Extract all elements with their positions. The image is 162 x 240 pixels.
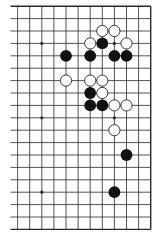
hoshi-point: [40, 116, 43, 119]
white-stone[interactable]: [60, 75, 71, 86]
white-stone[interactable]: [85, 38, 96, 49]
hoshi-point: [40, 42, 43, 45]
go-board[interactable]: [0, 0, 162, 240]
black-stone[interactable]: [109, 186, 121, 198]
white-stone[interactable]: [85, 75, 96, 86]
black-stone[interactable]: [84, 50, 96, 62]
hoshi-point: [113, 116, 116, 119]
black-stone[interactable]: [96, 100, 108, 112]
black-stone[interactable]: [84, 100, 96, 112]
white-stone[interactable]: [109, 100, 120, 111]
black-stone[interactable]: [60, 50, 72, 62]
white-stone[interactable]: [97, 75, 108, 86]
black-stone[interactable]: [121, 149, 133, 161]
black-stone[interactable]: [96, 38, 108, 50]
white-stone[interactable]: [121, 100, 132, 111]
black-stone[interactable]: [109, 50, 121, 62]
stones-layer: [60, 25, 132, 198]
black-stone[interactable]: [84, 87, 96, 99]
hoshi-point: [113, 42, 116, 45]
hoshi-point: [40, 191, 43, 194]
white-stone[interactable]: [121, 38, 132, 49]
white-stone[interactable]: [109, 125, 120, 136]
white-stone[interactable]: [97, 87, 108, 98]
white-stone[interactable]: [97, 25, 108, 36]
white-stone[interactable]: [109, 25, 120, 36]
black-stone[interactable]: [121, 50, 133, 62]
